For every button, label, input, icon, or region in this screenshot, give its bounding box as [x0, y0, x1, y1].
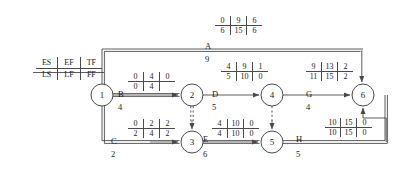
H-ff: 0 [357, 128, 373, 138]
D-es: 4 [221, 62, 237, 72]
key-lf: LF [58, 69, 80, 81]
C-ls: 2 [128, 129, 144, 139]
G-ff: 2 [338, 72, 354, 82]
node-label-1: 1 [93, 91, 111, 100]
B-lf: 4 [144, 82, 160, 92]
cpm-network-diagram: ES EF TF LS LF FF 1 2 3 4 5 6 0 9 6 6 15 [0, 0, 399, 174]
D-ef: 9 [237, 62, 253, 72]
B-ls: 0 [128, 82, 144, 92]
D-ls: 5 [221, 72, 237, 82]
C-lf: 4 [144, 129, 160, 139]
H-ls: 10 [325, 128, 341, 138]
D-tf: 1 [253, 62, 269, 72]
E-ls: 4 [212, 129, 228, 139]
D-ff: 0 [253, 72, 269, 82]
node-label-5: 5 [263, 138, 281, 147]
value-box-activity-B: 0 4 0 0 4 [128, 72, 175, 91]
value-box-activity-G: 9 13 2 11 15 2 [306, 62, 353, 81]
C-ff: 2 [160, 129, 176, 139]
G-lf: 15 [322, 72, 338, 82]
value-box-activity-C: 0 2 2 2 4 2 [128, 119, 175, 138]
activity-duration-A: 9 [205, 54, 209, 64]
activity-label-E: E [203, 134, 208, 144]
D-lf: 10 [237, 72, 253, 82]
key-ef: EF [58, 57, 80, 69]
H-es: 10 [325, 118, 341, 128]
G-ls: 11 [306, 72, 322, 82]
E-lf: 10 [228, 129, 244, 139]
A-ef: 9 [231, 16, 247, 26]
activity-label-H: H [296, 134, 302, 144]
A-lf: 15 [231, 26, 247, 36]
B-ff [160, 82, 176, 92]
H-tf: 0 [357, 118, 373, 128]
C-es: 0 [128, 119, 144, 129]
node-label-6: 6 [354, 91, 372, 100]
E-ff: 0 [244, 129, 260, 139]
key-ls: LS [36, 69, 58, 81]
dummy-arrow-2-3 [191, 106, 193, 129]
value-box-activity-A: 0 9 6 6 15 6 [215, 16, 262, 35]
activity-duration-E: 6 [203, 149, 207, 159]
arrow-activity-E [203, 141, 260, 144]
A-es: 0 [215, 16, 231, 26]
H-ef: 15 [341, 118, 357, 128]
value-box-activity-D: 4 9 1 5 10 0 [221, 62, 268, 81]
H-lf: 15 [341, 128, 357, 138]
activity-duration-G: 4 [306, 102, 310, 112]
G-tf: 2 [338, 62, 354, 72]
E-es: 4 [212, 119, 228, 129]
activity-label-B: B [118, 89, 124, 99]
activity-label-G: G [306, 89, 312, 99]
node-label-2: 2 [183, 91, 201, 100]
A-ls: 6 [215, 26, 231, 36]
A-ff: 6 [247, 26, 263, 36]
key-tf: TF [80, 57, 102, 69]
B-ef: 4 [144, 72, 160, 82]
activity-label-A: A [205, 41, 211, 51]
E-tf: 0 [244, 119, 260, 129]
node-label-4: 4 [263, 91, 281, 100]
activity-label-D: D [212, 89, 218, 99]
activity-duration-D: 5 [212, 102, 216, 112]
B-tf: 0 [160, 72, 176, 82]
value-box-activity-E: 4 10 0 4 10 0 [212, 119, 259, 138]
key-ff: FF [80, 69, 102, 81]
activity-duration-H: 5 [296, 149, 300, 159]
activity-duration-C: 2 [111, 149, 115, 159]
G-ef: 13 [322, 62, 338, 72]
E-ef: 10 [228, 119, 244, 129]
network-graphics [0, 0, 399, 174]
C-tf: 2 [160, 119, 176, 129]
time-key-legend: ES EF TF LS LF FF [36, 57, 102, 80]
key-es: ES [36, 57, 58, 69]
A-tf: 6 [247, 16, 263, 26]
B-es: 0 [128, 72, 144, 82]
C-ef: 2 [144, 119, 160, 129]
value-box-activity-H: 10 15 0 10 15 0 [325, 118, 372, 137]
G-es: 9 [306, 62, 322, 72]
activity-duration-B: 4 [118, 102, 122, 112]
activity-label-C: C [111, 136, 117, 146]
node-label-3: 3 [183, 138, 201, 147]
